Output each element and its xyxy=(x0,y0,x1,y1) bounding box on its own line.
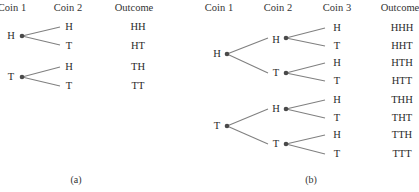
figure-b-header-coin2: Coin 2 xyxy=(264,2,292,14)
figure-b-outcome: THH xyxy=(391,94,413,106)
figure-a-coin2-leaf: H xyxy=(65,61,73,73)
figure-a-coin1-node: T xyxy=(8,71,14,83)
figure-b-coin3-leaf: H xyxy=(333,129,341,141)
figure-b-coin3-leaf: T xyxy=(334,112,340,124)
figure-b-coin3-leaf: T xyxy=(334,75,340,87)
figure-b-outcome: HTH xyxy=(391,57,413,69)
figure-b-coin3-leaf: H xyxy=(333,22,341,34)
figure-a-branches xyxy=(22,27,60,86)
figure-b-outcome: TTT xyxy=(392,148,411,160)
tree-branches xyxy=(0,0,419,192)
figure-b-outcome: THT xyxy=(392,112,412,124)
figure-a-coin2-leaf: T xyxy=(66,80,72,92)
figure-a-outcome: TT xyxy=(132,80,145,92)
figure-b-coin3-leaf: T xyxy=(334,148,340,160)
figure-b-outcome: HTT xyxy=(392,75,412,87)
figure-a-header-coin1: Coin 1 xyxy=(0,2,26,14)
figure-b-coin1-node: T xyxy=(214,120,220,132)
figure-b-outcome: HHT xyxy=(391,40,413,52)
figure-b-outcome: TTH xyxy=(392,129,412,141)
figure-b-coin3-leaf: H xyxy=(333,57,341,69)
figure-a-outcome: HT xyxy=(131,40,145,52)
figure-a-coin2-leaf: H xyxy=(65,21,73,33)
figure-a-coin1-node: H xyxy=(7,30,15,42)
figure-b-coin3-leaf: H xyxy=(333,94,341,106)
figure-b-coin1-node: H xyxy=(213,48,221,60)
figure-a-caption: (a) xyxy=(70,174,81,186)
figure-a-coin2-leaf: T xyxy=(66,40,72,52)
figure-b-branches xyxy=(227,28,325,154)
figure-b-header-coin3: Coin 3 xyxy=(323,2,351,14)
figure-b-coin2-node: H xyxy=(272,34,280,46)
figure-a-header-coin2: Coin 2 xyxy=(54,2,82,14)
figure-b-header-coin1: Coin 1 xyxy=(205,2,233,14)
figure-b-outcome: HHH xyxy=(391,22,414,34)
figure-b-caption: (b) xyxy=(305,174,317,186)
tree-diagrams: Coin 1 Coin 2 Outcome H T H T H T HH HT … xyxy=(0,0,419,192)
figure-b-coin2-node: T xyxy=(273,67,279,79)
figure-a-nodes xyxy=(20,34,25,80)
figure-a-outcome: HH xyxy=(130,21,145,33)
figure-a-outcome: TH xyxy=(131,61,145,73)
figure-b-coin2-node: T xyxy=(273,138,279,150)
figure-b-header-outcome: Outcome xyxy=(381,2,419,14)
figure-a-header-outcome: Outcome xyxy=(115,2,154,14)
figure-b-coin2-node: H xyxy=(272,103,280,115)
figure-b-coin3-leaf: T xyxy=(334,40,340,52)
